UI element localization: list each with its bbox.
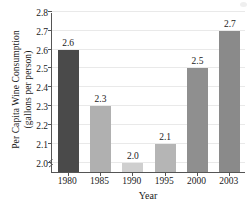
- bar-value-label: 2.6: [48, 38, 88, 48]
- y-axis-tick-label: 2.3: [36, 102, 48, 112]
- y-axis-tick-labels: 2.02.12.22.32.42.52.62.72.8: [24, 8, 48, 168]
- x-axis-tick-labels: 198019851990199520002003: [51, 176, 245, 190]
- bar: [155, 144, 176, 172]
- y-axis-title-line1: Per Capita Wine Consumption: [11, 30, 21, 149]
- y-axis-tick-label: 2.0: [36, 159, 48, 169]
- bar-value-label: 2.5: [178, 56, 218, 66]
- gridline: [52, 49, 245, 50]
- y-axis-tick: [48, 143, 52, 144]
- y-axis-tick: [48, 49, 52, 50]
- bar-value-label: 2.7: [210, 19, 250, 29]
- y-axis-tick: [48, 67, 52, 68]
- gridline: [52, 86, 245, 87]
- gridline: [52, 124, 245, 125]
- bar-chart-figure: Per Capita Wine Consumption (gallons per…: [0, 0, 250, 222]
- gridline: [52, 11, 245, 12]
- plot-area: 2.62.32.02.12.52.7: [51, 13, 245, 173]
- y-axis-tick-label: 2.6: [36, 46, 48, 56]
- y-axis-tick-label: 2.1: [36, 140, 48, 150]
- x-axis-tick-label: 2003: [209, 176, 249, 187]
- gridline: [52, 30, 245, 31]
- bar: [122, 163, 143, 172]
- bar: [58, 50, 79, 172]
- y-axis-tick: [48, 105, 52, 106]
- y-axis-tick: [48, 11, 52, 12]
- y-axis-tick-label: 2.7: [36, 27, 48, 37]
- page-corner-artifact: [240, 2, 247, 7]
- bar: [90, 106, 111, 172]
- y-axis-tick: [48, 30, 52, 31]
- bar-value-label: 2.0: [113, 151, 153, 161]
- bar-value-label: 2.3: [81, 94, 121, 104]
- gridline: [52, 143, 245, 144]
- gridline: [52, 67, 245, 68]
- gridline: [52, 162, 245, 163]
- bar: [219, 31, 240, 172]
- y-axis-tick: [48, 124, 52, 125]
- y-axis-tick-label: 2.5: [36, 64, 48, 74]
- axis-break-icon: [48, 158, 57, 169]
- y-axis-tick: [48, 162, 52, 163]
- y-axis-tick-label: 2.2: [36, 121, 48, 131]
- bar-value-label: 2.1: [145, 132, 185, 142]
- y-axis-tick-label: 2.8: [36, 8, 48, 18]
- y-axis-tick-label: 2.4: [36, 83, 48, 93]
- bar: [187, 68, 208, 172]
- gridline: [52, 105, 245, 106]
- x-axis-title: Year: [51, 190, 245, 201]
- y-axis-tick: [48, 86, 52, 87]
